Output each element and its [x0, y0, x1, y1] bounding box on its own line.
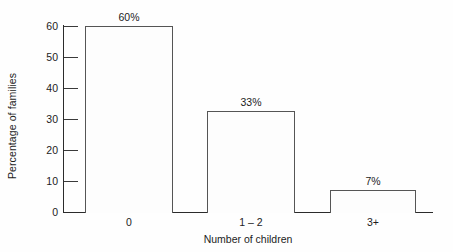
y-tick-label-0: 0	[20, 207, 58, 217]
y-tick-label-60-wrap: 60	[14, 21, 58, 31]
y-tick-mark-50	[64, 57, 78, 58]
y-tick-label-40-wrap: 40	[14, 83, 58, 93]
y-tick-label-0-wrap: 0	[14, 207, 58, 217]
y-tick-label-30: 30	[20, 114, 58, 124]
y-tick-label-60: 60	[20, 21, 58, 31]
x-category-label-1: 1 – 2	[207, 216, 295, 228]
y-tick-label-50: 50	[20, 52, 58, 62]
y-tick-mark-20	[64, 150, 78, 151]
bar-chart: Percentage of families 60 50 40 30 20 10…	[0, 0, 453, 252]
y-tick-label-50-wrap: 50	[14, 52, 58, 62]
y-tick-label-20-wrap: 20	[14, 145, 58, 155]
y-tick-mark-60	[64, 26, 78, 27]
y-tick-label-20: 20	[20, 145, 58, 155]
y-tick-mark-40	[64, 88, 78, 89]
y-tick-label-30-wrap: 30	[14, 114, 58, 124]
bar-value-2: 7%	[330, 176, 416, 187]
bar-1[interactable]	[207, 111, 295, 213]
bar-2[interactable]	[330, 190, 416, 213]
y-tick-label-40: 40	[20, 83, 58, 93]
y-tick-label-10: 10	[20, 176, 58, 186]
bar-value-0: 60%	[85, 12, 173, 23]
y-tick-label-10-wrap: 10	[14, 176, 58, 186]
x-category-label-0: 0	[85, 216, 173, 228]
x-category-label-2: 3+	[330, 216, 416, 228]
bar-value-1: 33%	[207, 97, 295, 108]
bar-0[interactable]	[85, 26, 173, 213]
y-tick-mark-30	[64, 119, 78, 120]
x-axis-title: Number of children	[63, 233, 433, 245]
y-tick-mark-10	[64, 181, 78, 182]
